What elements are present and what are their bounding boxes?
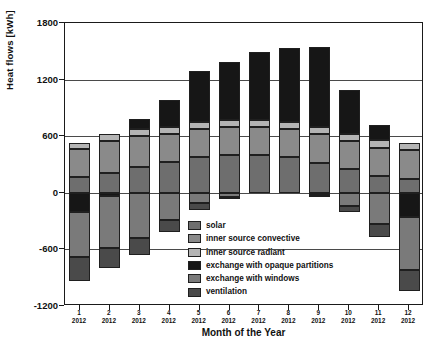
legend-swatch-icon [188, 261, 201, 270]
bar-segment[interactable] [309, 134, 330, 162]
bar-stack[interactable] [339, 23, 360, 306]
bar-segment[interactable] [159, 100, 180, 127]
bar-segment[interactable] [69, 177, 90, 193]
legend-item[interactable]: inner source convective [188, 232, 333, 245]
bar-stack[interactable] [399, 23, 420, 306]
bar-segment[interactable] [129, 238, 150, 255]
bar-segment[interactable] [369, 193, 390, 224]
bar-segment[interactable] [309, 127, 330, 134]
y-tick-mark [59, 305, 64, 306]
bar-segment[interactable] [129, 136, 150, 167]
bar-segment[interactable] [129, 129, 150, 136]
bar-segment[interactable] [219, 62, 240, 120]
bar-segment[interactable] [189, 122, 210, 129]
bar-segment[interactable] [219, 120, 240, 127]
bar-segment[interactable] [369, 224, 390, 237]
legend-swatch-icon [188, 288, 201, 297]
bar-stack[interactable] [129, 23, 150, 306]
bar-segment[interactable] [99, 248, 120, 268]
bar-segment[interactable] [159, 220, 180, 232]
bar-segment[interactable] [399, 179, 420, 193]
bar-segment[interactable] [339, 90, 360, 133]
bar-segment[interactable] [369, 140, 390, 147]
y-tick-label: -1200 [2, 300, 58, 311]
bar-segment[interactable] [279, 129, 300, 157]
chart-legend: solarinner source convectiveinner source… [188, 219, 333, 299]
legend-item[interactable]: exchange with windows [188, 272, 333, 285]
legend-swatch-icon [188, 248, 201, 257]
bar-segment[interactable] [189, 193, 210, 203]
bar-segment[interactable] [309, 163, 330, 193]
legend-swatch-icon [188, 234, 201, 243]
bar-segment[interactable] [219, 197, 240, 200]
bar-segment[interactable] [249, 52, 270, 120]
x-tick-year: 2012 [390, 317, 426, 325]
bar-stack[interactable] [159, 23, 180, 306]
bar-segment[interactable] [129, 167, 150, 192]
bar-segment[interactable] [339, 141, 360, 169]
chart-figure: Heat flows [kWh] 180012006000-600-1200 1… [0, 0, 448, 348]
y-tick-label: 1200 [2, 73, 58, 84]
bar-segment[interactable] [249, 155, 270, 193]
bar-segment[interactable] [159, 193, 180, 220]
bar-stack[interactable] [369, 23, 390, 306]
bar-segment[interactable] [189, 71, 210, 122]
bar-stack[interactable] [99, 23, 120, 306]
bar-segment[interactable] [69, 149, 90, 176]
bar-segment[interactable] [339, 134, 360, 141]
bar-segment[interactable] [99, 196, 120, 249]
bar-segment[interactable] [399, 217, 420, 270]
x-tick-label: 122012 [390, 309, 426, 325]
bar-segment[interactable] [339, 206, 360, 212]
bar-segment[interactable] [399, 270, 420, 291]
bar-segment[interactable] [399, 143, 420, 150]
bar-segment[interactable] [399, 150, 420, 178]
bar-segment[interactable] [309, 47, 330, 127]
x-axis-title: Month of the Year [64, 327, 423, 338]
legend-swatch-icon [188, 221, 201, 230]
bar-segment[interactable] [309, 195, 330, 197]
bar-segment[interactable] [339, 169, 360, 193]
bar-segment[interactable] [249, 120, 270, 127]
bar-segment[interactable] [159, 162, 180, 193]
bar-segment[interactable] [69, 193, 90, 212]
bar-segment[interactable] [159, 134, 180, 161]
bar-segment[interactable] [99, 173, 120, 193]
bar-segment[interactable] [279, 48, 300, 122]
bar-segment[interactable] [279, 157, 300, 193]
legend-label: exchange with opaque partitions [206, 259, 333, 272]
bar-segment[interactable] [99, 134, 120, 141]
bar-segment[interactable] [189, 129, 210, 157]
bar-segment[interactable] [129, 119, 150, 129]
bar-segment[interactable] [399, 193, 420, 218]
bar-segment[interactable] [219, 127, 240, 155]
legend-label: inner source radiant [206, 246, 285, 259]
bar-segment[interactable] [279, 122, 300, 129]
bar-segment[interactable] [189, 157, 210, 193]
bar-segment[interactable] [129, 193, 150, 238]
legend-label: exchange with windows [206, 272, 299, 285]
y-tick-label: 1800 [2, 17, 58, 28]
bar-segment[interactable] [159, 127, 180, 134]
bar-segment[interactable] [369, 148, 390, 176]
bar-segment[interactable] [99, 141, 120, 172]
bar-segment[interactable] [69, 212, 90, 257]
bar-segment[interactable] [69, 143, 90, 150]
legend-label: ventilation [206, 285, 247, 298]
bar-segment[interactable] [69, 257, 90, 282]
legend-item[interactable]: inner source radiant [188, 246, 333, 259]
y-tick-label: -600 [2, 243, 58, 254]
legend-item[interactable]: ventilation [188, 285, 333, 298]
legend-item[interactable]: solar [188, 219, 333, 232]
legend-item[interactable]: exchange with opaque partitions [188, 259, 333, 272]
bar-segment[interactable] [339, 193, 360, 206]
x-tick-month: 12 [390, 309, 426, 317]
bar-stack[interactable] [69, 23, 90, 306]
legend-label: inner source convective [206, 232, 300, 245]
bar-segment[interactable] [369, 176, 390, 193]
bar-segment[interactable] [249, 127, 270, 155]
legend-swatch-icon [188, 274, 201, 283]
bar-segment[interactable] [219, 155, 240, 193]
bar-segment[interactable] [369, 125, 390, 140]
bar-segment[interactable] [189, 203, 210, 210]
